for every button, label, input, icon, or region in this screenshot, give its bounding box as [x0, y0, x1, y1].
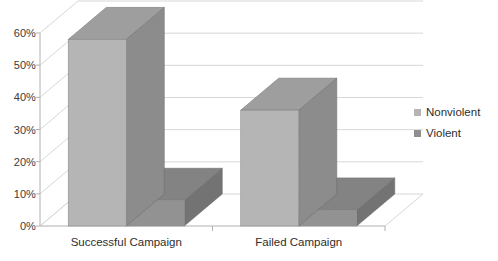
chart-root: 0%10%20%30%40%50%60% Successful Campaign… [0, 0, 498, 261]
y-axis-label-0: 0% [20, 220, 36, 232]
bar-nonviolent-2-front-face [241, 110, 299, 226]
category-label-1: Successful Campaign [71, 236, 182, 248]
legend-item-violent[interactable]: Violent [414, 127, 480, 139]
y-axis-tick-labels: 0%10%20%30%40%50%60% [0, 0, 36, 261]
category-label-2: Failed Campaign [255, 236, 342, 248]
sidewall-line-60 [40, 1, 78, 33]
bar-nonviolent-2 [241, 78, 337, 226]
legend-label-nonviolent: Nonviolent [426, 106, 480, 118]
y-axis-label-30: 30% [14, 124, 36, 136]
y-axis-label-20: 20% [14, 156, 36, 168]
legend-swatch-icon-nonviolent [414, 109, 421, 116]
floor-right-edge [385, 194, 423, 226]
y-axis-label-10: 10% [14, 188, 36, 200]
bar-nonviolent-1-side-face [126, 7, 164, 226]
legend-swatch-icon-violent [414, 130, 421, 137]
y-axis-label-50: 50% [14, 59, 36, 71]
y-axis-label-40: 40% [14, 91, 36, 103]
legend-item-nonviolent[interactable]: Nonviolent [414, 106, 480, 118]
bar-nonviolent-1-front-face [68, 39, 126, 226]
legend-label-violent: Violent [426, 127, 461, 139]
y-axis-label-60: 60% [14, 27, 36, 39]
bar-nonviolent-1 [68, 7, 164, 226]
chart-legend: NonviolentViolent [414, 106, 480, 148]
